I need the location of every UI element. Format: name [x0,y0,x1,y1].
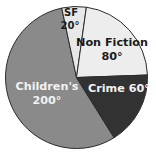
pie-label-sf-name: SF [64,7,78,18]
pie-label-non-fiction-value: 80° [101,50,122,63]
pie-chart-svg: SF 20° Non Fiction 80° Crime 60° Childre… [0,0,156,155]
pie-label-sf-value: 20° [61,20,80,31]
pie-label-crime: Crime 60° [88,82,150,95]
pie-label-children-name: Children's [15,80,78,93]
pie-label-non-fiction-name: Non Fiction [76,36,148,49]
pie-label-children-value: 200° [33,94,62,107]
pie-chart: SF 20° Non Fiction 80° Crime 60° Childre… [0,0,156,155]
